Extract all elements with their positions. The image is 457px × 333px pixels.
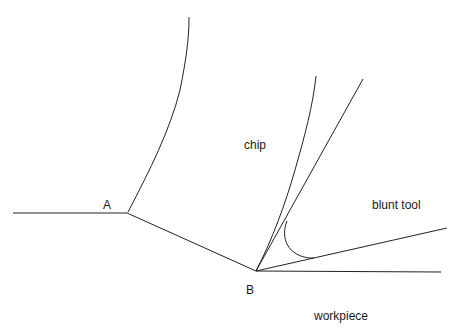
point-a-label: A (103, 199, 111, 211)
tool-rake-face (256, 79, 363, 271)
diagram-drawing (0, 0, 457, 333)
point-b-label: B (246, 284, 254, 296)
blunt-edge-arc (285, 221, 314, 258)
blunt-tool-label: blunt tool (372, 199, 421, 211)
chip-outer-surface (128, 17, 189, 212)
chip-label: chip (244, 139, 266, 151)
machined-surface-line (256, 271, 441, 272)
diagram-canvas: A B chip blunt tool workpiece (0, 0, 457, 333)
shear-plane-line (127, 213, 256, 271)
workpiece-label: workpiece (314, 310, 368, 322)
